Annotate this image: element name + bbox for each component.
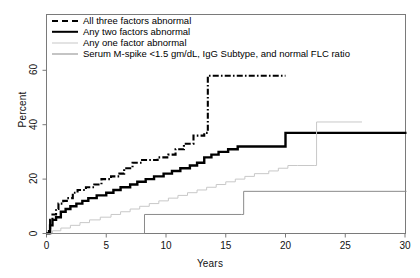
axis-ticks <box>43 70 406 237</box>
legend-label: Serum M-spike <1.5 gm/dL, IgG Subtype, a… <box>83 48 350 59</box>
series-line-0 <box>47 76 286 234</box>
x-tick-label: 15 <box>213 240 239 251</box>
legend-item-all-three: All three factors abnormal <box>52 15 392 26</box>
series-line-2 <box>47 122 362 234</box>
solid-bold-line-icon <box>52 26 78 37</box>
series-line-3 <box>47 191 408 233</box>
x-tick-label: 10 <box>153 240 179 251</box>
legend-item-any-one: Any one factor abnormal <box>52 37 392 48</box>
x-tick-label: 20 <box>273 240 299 251</box>
legend-label: Any two factors abnormal <box>83 26 190 37</box>
chart-legend: All three factors abnormal Any two facto… <box>52 15 392 59</box>
y-tick-label: 60 <box>27 57 38 83</box>
legend-label: All three factors abnormal <box>83 15 191 26</box>
x-tick-label: 30 <box>392 240 418 251</box>
dashed-bold-line-icon <box>52 15 78 26</box>
y-tick-label: 20 <box>27 166 38 192</box>
y-axis-label: Percent <box>17 80 28 140</box>
cumulative-incidence-chart: Percent Years 0204060 051015202530 All t… <box>0 0 420 278</box>
legend-item-any-two: Any two factors abnormal <box>52 26 392 37</box>
y-tick-label: 40 <box>27 111 38 137</box>
series-layer <box>47 76 408 234</box>
x-axis-label: Years <box>0 258 420 269</box>
solid-mid-line-icon <box>52 48 78 59</box>
x-tick-label: 25 <box>332 240 358 251</box>
solid-light-line-icon <box>52 37 78 48</box>
legend-label: Any one factor abnormal <box>83 37 187 48</box>
legend-item-mspike: Serum M-spike <1.5 gm/dL, IgG Subtype, a… <box>52 48 392 59</box>
x-tick-label: 0 <box>34 240 60 251</box>
x-tick-label: 5 <box>93 240 119 251</box>
